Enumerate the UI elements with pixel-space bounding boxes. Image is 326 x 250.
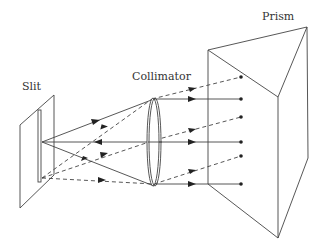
solid-rays <box>42 99 241 186</box>
prism-face-points <box>239 75 243 186</box>
spectrometer-diagram: Slit Collimator Prism <box>0 0 326 250</box>
prism-label: Prism <box>262 10 295 23</box>
slit-panel <box>20 95 54 208</box>
slit-opening <box>38 110 41 182</box>
prism <box>208 27 308 238</box>
slit-label: Slit <box>22 80 42 93</box>
collimator-label: Collimator <box>132 70 192 83</box>
arrowheads <box>81 87 196 187</box>
